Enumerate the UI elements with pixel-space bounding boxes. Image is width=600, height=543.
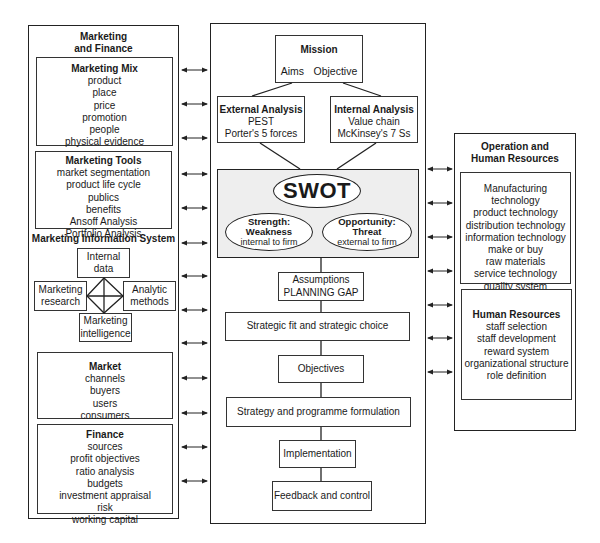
operation-hr-title-line2: Human Resources [454, 153, 576, 165]
mis-research-line1: Marketing [39, 284, 83, 296]
planning-gap-label: PLANNING GAP [283, 287, 358, 299]
mis-marketing-research-box: Marketing research [34, 281, 87, 311]
finance-item: profit objectives [38, 453, 172, 465]
finance-item: ratio analysis [38, 466, 172, 478]
market-item: channels [38, 373, 172, 385]
operations-item: Manufacturing technology [461, 183, 570, 207]
operations-item: distribution technology [461, 220, 570, 232]
mis-intelligence-line2: intelligence [80, 328, 130, 340]
mis-research-line2: research [41, 296, 80, 308]
marketing-tools-title: Marketing Tools [36, 155, 171, 167]
marketing-mix-item: place [37, 87, 172, 99]
operations-item: raw materials [461, 256, 570, 268]
internal-analysis-title: Internal Analysis [331, 104, 417, 116]
finance-item: working capital [38, 514, 172, 526]
mis-internal-data-line2: data [94, 263, 113, 275]
strategic-fit-box: Strategic fit and strategic choice [225, 312, 410, 341]
external-analysis-item: Porter's 5 forces [218, 128, 304, 140]
mis-internal-data-line1: Internal [87, 251, 120, 263]
objectives-label: Objectives [298, 363, 345, 375]
operations-item: make or buy [461, 244, 570, 256]
external-analysis-box: External Analysis PEST Porter's 5 forces [217, 96, 305, 143]
implementation-box: Implementation [279, 440, 356, 468]
mission-objective: Objective [314, 65, 358, 77]
right-double-arrows [428, 169, 452, 372]
marketing-tools-box: Marketing Tools market segmentation prod… [35, 151, 172, 229]
mis-title: Marketing Information System [28, 233, 179, 245]
operations-box: Manufacturing technology product technol… [460, 172, 571, 284]
strength-label: Strength: [248, 217, 290, 227]
strategic-fit-label: Strategic fit and strategic choice [247, 320, 389, 332]
marketing-tools-item: benefits [36, 204, 171, 216]
human-resources-box: Human Resources staff selection staff de… [461, 289, 572, 400]
external-to-firm-label: external to firm [337, 237, 397, 248]
human-resources-item: staff selection [462, 321, 571, 333]
swot-title: SWOT [283, 178, 351, 204]
feedback-control-label: Feedback and control [274, 490, 370, 502]
left-double-arrows [182, 70, 207, 481]
marketing-tools-item: market segmentation [36, 167, 171, 179]
strategy-formulation-box: Strategy and programme formulation [226, 397, 411, 427]
mis-analytic-methods-box: Analytic methods [123, 281, 176, 311]
mission-aims: Aims [281, 65, 304, 77]
human-resources-title: Human Resources [462, 309, 571, 321]
objectives-box: Objectives [278, 355, 364, 383]
market-box: Market channels buyers users consumers [37, 352, 173, 419]
strength-weakness-ellipse: Strength: Weakness internal to firm [225, 213, 313, 251]
operation-hr-title: Operation and Human Resources [454, 141, 576, 165]
internal-analysis-item: McKinsey's 7 Ss [331, 128, 417, 140]
finance-item: investment appraisal [38, 490, 172, 502]
threat-label: Threat [352, 227, 381, 237]
operation-hr-title-line1: Operation and [454, 141, 576, 153]
human-resources-item: reward system [462, 346, 571, 358]
mis-internal-data-box: Internal data [77, 248, 130, 278]
human-resources-item: organizational structure [462, 358, 571, 370]
internal-analysis-item: Value chain [331, 116, 417, 128]
assumptions-label: Assumptions [292, 274, 349, 286]
mission-title: Mission [276, 44, 362, 56]
swot-ellipse: SWOT [273, 174, 361, 208]
marketing-mix-item: physical evidence [37, 136, 172, 148]
internal-to-firm-label: internal to firm [240, 237, 297, 248]
mis-marketing-intelligence-box: Marketing intelligence [79, 313, 132, 342]
marketing-mix-item: price [37, 100, 172, 112]
external-analysis-title: External Analysis [218, 104, 304, 116]
marketing-tools-item: Ansoff Analysis [36, 216, 171, 228]
marketing-mix-title: Marketing Mix [37, 63, 172, 75]
marketing-mix-item: product [37, 75, 172, 87]
operations-item: product technology [461, 207, 570, 219]
opportunity-threat-ellipse: Opportunity: Threat external to firm [322, 213, 412, 251]
marketing-tools-item: product life cycle [36, 179, 171, 191]
human-resources-item: role definition [462, 370, 571, 382]
finance-item: budgets [38, 478, 172, 490]
marketing-finance-title: Marketing and Finance [28, 31, 179, 55]
marketing-mix-item: people [37, 124, 172, 136]
opportunity-label: Opportunity: [338, 217, 396, 227]
mis-analytic-line1: Analytic [132, 284, 167, 296]
operations-item: information technology [461, 232, 570, 244]
strategy-formulation-label: Strategy and programme formulation [237, 406, 400, 418]
finance-box: Finance sources profit objectives ratio … [37, 424, 173, 514]
finance-item: sources [38, 441, 172, 453]
implementation-label: Implementation [283, 448, 351, 460]
human-resources-item: staff development [462, 333, 571, 345]
internal-analysis-box: Internal Analysis Value chain McKinsey's… [330, 96, 418, 143]
weakness-label: Weakness [246, 227, 292, 237]
marketing-mix-box: Marketing Mix product place price promot… [36, 57, 173, 146]
finance-title: Finance [38, 429, 172, 441]
marketing-finance-title-line2: and Finance [28, 43, 179, 55]
finance-item: risk [38, 502, 172, 514]
mis-analytic-line2: methods [130, 296, 168, 308]
market-item: consumers [38, 410, 172, 422]
marketing-mix-item: promotion [37, 112, 172, 124]
mis-intelligence-line1: Marketing [84, 315, 128, 327]
mission-box: Mission Aims Objective [275, 35, 363, 83]
market-item: users [38, 398, 172, 410]
market-item: buyers [38, 385, 172, 397]
marketing-finance-title-line1: Marketing [28, 31, 179, 43]
marketing-tools-item: publics [36, 192, 171, 204]
market-title: Market [38, 361, 172, 373]
feedback-control-box: Feedback and control [272, 481, 372, 511]
assumptions-planning-gap-box: Assumptions PLANNING GAP [278, 272, 364, 301]
external-analysis-item: PEST [218, 116, 304, 128]
